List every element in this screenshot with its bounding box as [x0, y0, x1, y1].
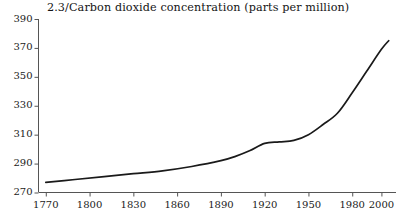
y-axis-tick-label: 350 — [9, 70, 33, 81]
y-axis-tick-label: 290 — [9, 157, 33, 168]
chart-container: 2.3/Carbon dioxide concentration (parts … — [0, 0, 404, 224]
y-axis-tick-label: 310 — [9, 128, 33, 139]
x-axis-tick-label: 1920 — [248, 199, 282, 210]
y-axis-ticks — [35, 20, 39, 194]
x-axis-tick-label: 1890 — [204, 199, 238, 210]
y-axis-tick-label: 390 — [9, 13, 33, 24]
plot-area — [0, 0, 404, 224]
x-axis-tick-label: 1950 — [291, 199, 325, 210]
x-axis-tick-label: 1800 — [73, 199, 107, 210]
x-axis-tick-label: 1860 — [160, 199, 194, 210]
data-series-line — [46, 41, 389, 183]
x-axis-ticks — [46, 193, 382, 197]
y-axis-tick-label: 330 — [9, 99, 33, 110]
y-axis-tick-label: 270 — [9, 186, 33, 197]
x-axis-tick-label: 1770 — [29, 199, 63, 210]
x-axis-tick-label: 2000 — [364, 199, 398, 210]
x-axis-tick-label: 1830 — [116, 199, 150, 210]
y-axis-tick-label: 370 — [9, 41, 33, 52]
